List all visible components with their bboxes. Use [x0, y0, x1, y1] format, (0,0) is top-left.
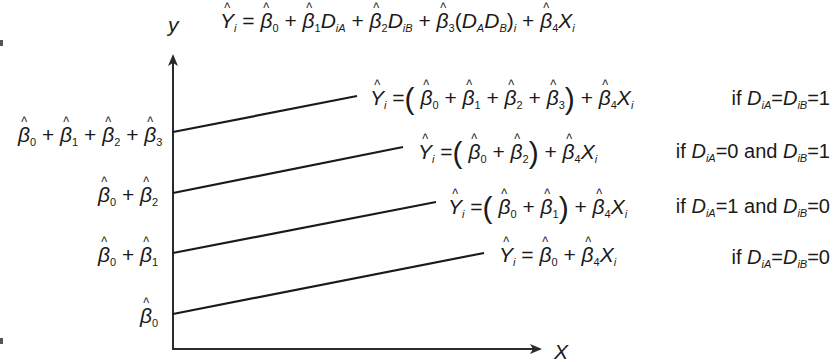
- regression-line-none: [173, 253, 484, 314]
- intercept-label-both: β0 + β1 + β2 + β3: [18, 124, 162, 148]
- condition-none: if DiA=DiB=0: [731, 247, 830, 270]
- line-equation-both: Yi =( β0 + β1 + β2 + β3) + β4Xi: [370, 84, 633, 114]
- condition-a-only: if DiA=1 and DiB=0: [676, 196, 830, 219]
- line-equation-none: Yi = β0 + β4Xi: [499, 244, 616, 268]
- regression-line-b-only: [173, 147, 403, 193]
- model-equation: Yi = β0 + β1DiA + β2DiB + β3(DADB)i + β4…: [220, 10, 575, 34]
- intercept-label-b-only: β0 + β2: [98, 184, 158, 208]
- condition-both: if DiA=DiB=1: [731, 88, 830, 111]
- regression-line-both: [173, 96, 357, 132]
- intercept-label-a-only: β0 + β1: [98, 244, 158, 268]
- scan-mark: [0, 40, 3, 46]
- x-axis-label: X: [554, 340, 568, 362]
- intercept-label-none: β0: [140, 305, 158, 329]
- line-equation-b-only: Yi =( β0 + β2) + β4Xi: [418, 138, 597, 168]
- condition-b-only: if DiA=0 and DiB=1: [676, 141, 830, 164]
- scan-mark: [0, 338, 3, 344]
- y-axis-label: y: [168, 13, 179, 37]
- plot-area: [0, 0, 834, 362]
- regression-line-a-only: [173, 202, 436, 253]
- line-equation-a-only: Yi =( β0 + β1) + β4Xi: [448, 193, 627, 223]
